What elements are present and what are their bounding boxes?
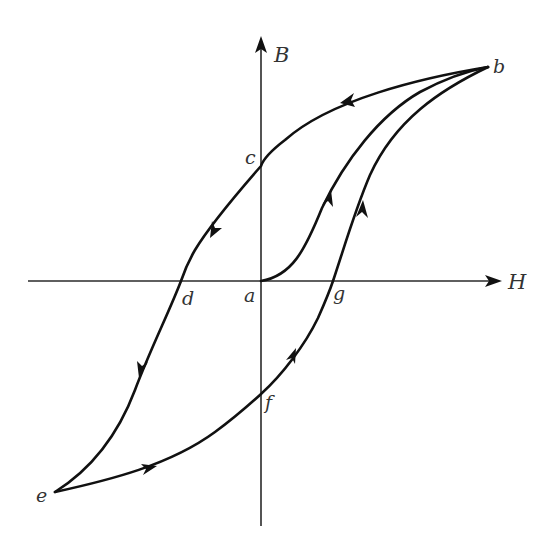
h-axis-label: H — [507, 270, 527, 294]
point-a-label: a — [244, 284, 255, 306]
hysteresis-curves — [55, 67, 488, 492]
point-f-label: f — [263, 391, 275, 413]
point-g-label: g — [333, 282, 345, 304]
b-axis-label: B — [273, 43, 289, 67]
point-d-label: d — [182, 287, 194, 309]
point-b-label: b — [493, 55, 505, 77]
hysteresis-diagram: B H a b c d e f g — [0, 0, 545, 534]
arrow-d-to-e-icon — [137, 361, 148, 378]
arrow-c-to-d-icon — [210, 221, 222, 238]
point-c-label: c — [245, 146, 256, 168]
point-e-label: e — [36, 484, 47, 506]
initial-magnetization-curve — [261, 67, 488, 281]
